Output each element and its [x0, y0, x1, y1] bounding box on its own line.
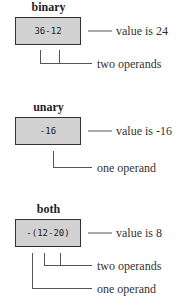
- section-title: unary: [15, 100, 82, 115]
- section-title: binary: [15, 0, 82, 15]
- expression-text: 36-12: [34, 26, 61, 36]
- expression-box: -(12-20): [15, 219, 81, 247]
- operand-annotation: two operands: [97, 260, 161, 272]
- expression-text: -16: [40, 126, 56, 136]
- section-title: both: [15, 202, 82, 217]
- expression-box: -16: [15, 117, 81, 145]
- value-label: value is 8: [116, 227, 162, 239]
- operand-annotation: one operand: [97, 162, 156, 174]
- expression-box: 36-12: [15, 17, 81, 45]
- operand-annotation: one operand: [97, 283, 156, 295]
- expression-text: -(12-20): [26, 228, 69, 238]
- value-label: value is 24: [116, 25, 168, 37]
- operand-annotation: two operands: [97, 58, 161, 70]
- value-label: value is -16: [116, 125, 172, 137]
